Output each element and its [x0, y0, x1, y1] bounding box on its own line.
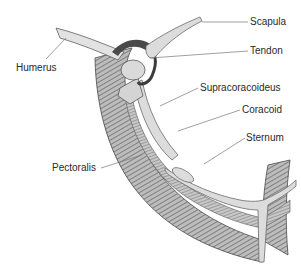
humerus-leader [46, 38, 66, 59]
sternum-leader [204, 138, 245, 164]
scapula-bone [146, 17, 202, 58]
supracoracoideus-leader [160, 88, 198, 106]
anatomy-diagram: Scapula Tendon Humerus Supracoracoideus … [0, 0, 301, 264]
label-supracoracoideus: Supracoracoideus [200, 82, 281, 94]
label-scapula: Scapula [250, 16, 286, 28]
humeral-head [121, 60, 145, 80]
label-coracoid: Coracoid [242, 104, 282, 116]
label-humerus: Humerus [16, 62, 57, 74]
humerus-bone [56, 28, 124, 60]
tendon-leader [150, 51, 248, 58]
label-tendon: Tendon [250, 45, 283, 57]
coracoid-leader [178, 110, 240, 131]
label-pectoralis: Pectoralis [52, 162, 96, 174]
label-sternum: Sternum [246, 132, 284, 144]
